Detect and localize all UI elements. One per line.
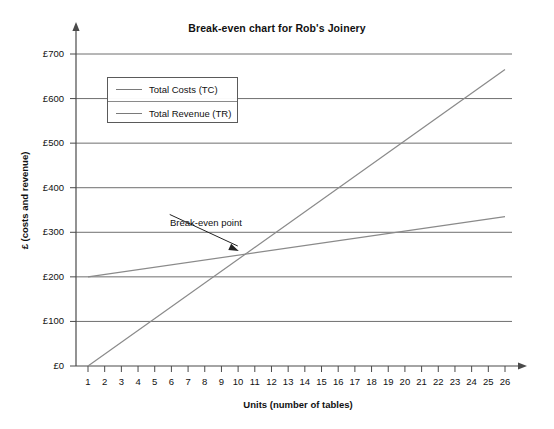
y-tick-label: £700 (12, 48, 64, 59)
y-axis-ticks (70, 54, 76, 366)
series-line (88, 217, 505, 277)
x-tick-label: 26 (495, 376, 515, 387)
y-tick-label: £600 (12, 93, 64, 104)
legend-item-total-revenue: Total Revenue (TR) (108, 101, 237, 124)
y-tick-label: £300 (12, 226, 64, 237)
y-tick-label: £200 (12, 271, 64, 282)
x-axis-ticks (88, 366, 505, 372)
break-even-point-label: Break-even point (170, 217, 242, 228)
axes (72, 22, 527, 370)
legend-swatch-total-costs (116, 89, 142, 90)
chart-legend: Total Costs (TC) Total Revenue (TR) (107, 77, 238, 123)
legend-label-total-costs: Total Costs (TC) (149, 84, 218, 95)
y-tick-label: £100 (12, 315, 64, 326)
y-tick-label: £400 (12, 182, 64, 193)
legend-label-total-revenue: Total Revenue (TR) (149, 108, 231, 119)
plot-area (0, 0, 554, 429)
break-even-chart: Break-even chart for Rob's Joinery £ (co… (0, 0, 554, 429)
legend-swatch-total-revenue (116, 113, 142, 114)
legend-item-total-costs: Total Costs (TC) (108, 78, 237, 101)
y-tick-label: £500 (12, 137, 64, 148)
y-tick-label: £0 (12, 360, 64, 371)
